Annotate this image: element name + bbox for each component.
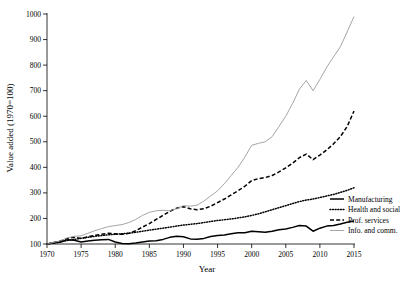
series-line-2	[47, 111, 354, 244]
y-tick-label: 700	[30, 86, 42, 95]
y-tick-label: 600	[30, 112, 42, 121]
line-chart: 1002003004005006007008009001000 19701975…	[0, 0, 415, 282]
legend-label-0: Manufacturing	[348, 195, 393, 204]
y-axis-title: Value added (1970=100)	[5, 83, 15, 172]
y-tick-label: 100	[30, 240, 42, 249]
y-tick-label: 400	[30, 163, 42, 172]
chart-figure: 1002003004005006007008009001000 19701975…	[0, 0, 415, 282]
x-tick-label: 1970	[40, 250, 55, 259]
x-tick-label: 2005	[278, 250, 293, 259]
x-tick-label: 1980	[108, 250, 123, 259]
y-tick-label: 900	[30, 35, 42, 44]
y-axis-ticks: 1002003004005006007008009001000	[26, 10, 47, 249]
x-tick-label: 1995	[210, 250, 225, 259]
data-series-group	[47, 17, 354, 244]
y-tick-label: 1000	[26, 10, 41, 19]
x-tick-label: 2000	[244, 250, 259, 259]
legend-label-1: Health and social	[348, 205, 400, 214]
x-tick-label: 2015	[347, 250, 362, 259]
x-tick-label: 2010	[312, 250, 327, 259]
legend-label-3: Info. and comm.	[348, 226, 398, 235]
x-axis-ticks: 1970197519801985199019952000200520102015	[40, 244, 362, 259]
x-axis-title: Year	[199, 264, 216, 274]
x-tick-label: 1975	[74, 250, 89, 259]
x-tick-label: 1985	[142, 250, 157, 259]
y-tick-label: 300	[30, 188, 42, 197]
y-tick-label: 800	[30, 61, 42, 70]
legend-label-2: Prof. services	[348, 216, 389, 225]
chart-legend: ManufacturingHealth and socialProf. serv…	[330, 195, 400, 236]
y-tick-label: 500	[30, 137, 42, 146]
series-line-0	[47, 221, 354, 244]
x-tick-label: 1990	[176, 250, 191, 259]
y-tick-label: 200	[30, 214, 42, 223]
